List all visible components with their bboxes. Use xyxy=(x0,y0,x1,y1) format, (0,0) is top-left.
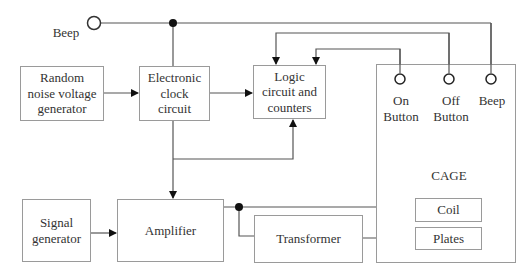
plates-block: Plates xyxy=(415,227,482,250)
transformer-block: Transformer xyxy=(254,215,363,263)
beep-terminal-label: Beep xyxy=(474,93,510,109)
off-button-terminal-icon xyxy=(444,74,454,84)
cage-label: CAGE xyxy=(418,168,480,184)
off-button-label: Off Button xyxy=(432,93,470,124)
beep-terminal-icon xyxy=(486,74,496,84)
amplifier-block: Amplifier xyxy=(117,199,224,262)
on-button-terminal-icon xyxy=(395,74,405,84)
on-button-label: On Button xyxy=(382,93,420,124)
signal-generator-block: Signal generator xyxy=(22,199,91,262)
coil-block: Coil xyxy=(415,198,482,222)
